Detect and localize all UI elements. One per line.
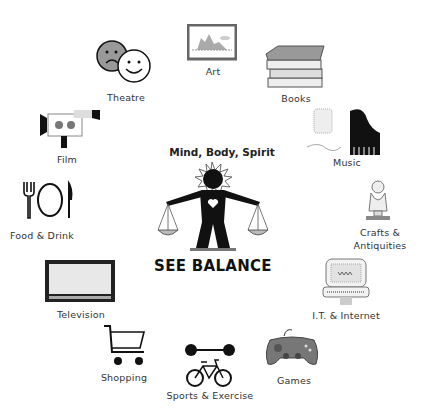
computer-icon	[322, 257, 370, 307]
gamepad-icon	[264, 326, 320, 368]
category-label-film: Film	[52, 154, 82, 165]
book-stack-icon	[264, 44, 326, 90]
category-label-shopping: Shopping	[100, 372, 148, 383]
category-label-art: Art	[198, 66, 228, 77]
dumbbell-bicycle-icon	[183, 340, 239, 390]
category-label-theatre: Theatre	[104, 92, 148, 103]
theatre-masks-icon	[96, 38, 154, 86]
fork-plate-knife-icon	[22, 178, 76, 220]
television-icon	[44, 258, 116, 304]
bust-statue-icon	[365, 177, 391, 223]
category-label-television: Television	[52, 309, 110, 320]
balance-scale-person-icon	[158, 160, 268, 255]
category-label-it: I.T. & Internet	[311, 310, 381, 321]
category-label-music: Music	[330, 157, 364, 168]
framed-painting-icon	[187, 24, 237, 62]
film-camera-icon	[40, 110, 102, 150]
category-label-crafts: Crafts & Antiquities	[353, 226, 407, 252]
category-label-food: Food & Drink	[4, 230, 80, 241]
category-label-games: Games	[275, 375, 313, 386]
shopping-cart-icon	[102, 324, 146, 368]
center-footer: SEE BALANCE	[152, 257, 274, 275]
piano-speaker-icon	[305, 107, 383, 157]
category-label-sports: Sports & Exercise	[166, 390, 254, 401]
category-label-books: Books	[278, 93, 314, 104]
center-title: Mind, Body, Spirit	[162, 146, 282, 158]
